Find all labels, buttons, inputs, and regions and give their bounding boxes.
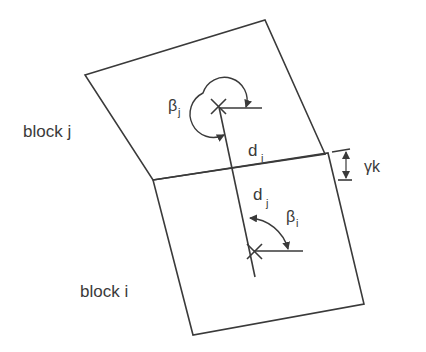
svg-text:j: j (177, 106, 180, 118)
svg-text:β: β (168, 97, 177, 114)
svg-text:i: i (261, 152, 263, 164)
block-i-outline (153, 153, 364, 335)
beta-i-label: β i (286, 208, 298, 229)
svg-text:i: i (296, 217, 298, 229)
svg-text:d: d (248, 141, 257, 160)
d-i-label: d i (248, 141, 263, 164)
svg-text:β: β (286, 208, 295, 225)
block-diagram: block j block i β j d i d j β i γk (0, 0, 426, 352)
beta-i-arc (250, 218, 288, 249)
beta-j-label: β j (168, 97, 180, 118)
gamma-k-label: γk (364, 158, 381, 175)
d-connector-line (219, 107, 255, 277)
centroid-j-marker-icon (211, 99, 226, 114)
gamma-k-top-extension (332, 149, 350, 152)
d-j-label: d j (253, 185, 268, 209)
svg-text:j: j (265, 197, 268, 209)
block-j-label: block j (23, 122, 71, 141)
block-i-label: block i (80, 282, 128, 301)
svg-text:d: d (253, 185, 262, 204)
block-j-outline (85, 20, 325, 180)
